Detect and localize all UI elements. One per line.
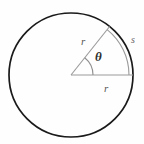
subtended-arc xyxy=(107,30,129,75)
radius-slanted-line xyxy=(71,26,110,75)
diagram-canvas xyxy=(0,0,144,144)
label-central-angle-theta: θ xyxy=(95,50,102,63)
label-arc-length: s xyxy=(131,35,135,45)
label-radius-lower: r xyxy=(104,83,108,94)
label-radius-upper: r xyxy=(81,36,85,47)
central-angle-arc xyxy=(85,58,93,75)
circle-arc-diagram: r r s θ xyxy=(0,0,144,144)
